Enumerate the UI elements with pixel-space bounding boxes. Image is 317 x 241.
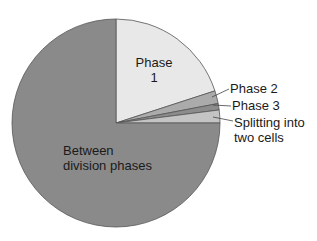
label-phase3: Phase 3 (232, 98, 280, 113)
label-phase2: Phase 2 (230, 81, 278, 96)
label-phase1: Phase 1 (134, 55, 174, 85)
label-phase1-line1: Phase (134, 55, 174, 70)
label-splitting-line2: two cells (234, 130, 305, 145)
label-splitting: Splitting into two cells (234, 115, 305, 145)
label-between-line2: division phases (63, 158, 152, 173)
label-between-line1: Between (63, 143, 152, 158)
label-splitting-line1: Splitting into (234, 115, 305, 130)
label-between: Between division phases (63, 143, 152, 173)
label-phase1-line2: 1 (134, 70, 174, 85)
